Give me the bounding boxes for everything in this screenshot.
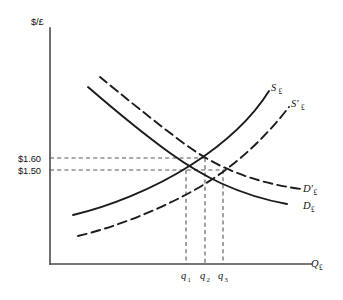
x-axis-label: Q £: [311, 258, 323, 272]
demand-label-sub: £: [311, 206, 315, 214]
quantity-tick-q1: q 1: [181, 270, 191, 283]
x-axis-label-sub: £: [319, 264, 323, 272]
supply-shifted-curve: [78, 107, 289, 236]
q2-label-sub: 2: [207, 276, 211, 283]
quantity-tick-q3: q 3: [218, 270, 229, 283]
demand-shifted-label-main: D': [302, 183, 314, 194]
supply-label-sub: £: [279, 88, 283, 96]
q1-label-main: q: [181, 270, 186, 281]
supply-shifted-label-sub: £: [301, 104, 305, 112]
q3-label-sub: 3: [225, 276, 229, 283]
axes-group: [50, 28, 311, 264]
chart-canvas: $/£ $1.60 $1.50 Q £ q 1 q 2 q 3 S £ S' £: [0, 0, 343, 300]
supply-shifted-label-main: S': [291, 98, 299, 109]
demand-shifted-label: D' £: [302, 183, 318, 197]
exchange-rate-supply-demand-figure: $/£ $1.60 $1.50 Q £ q 1 q 2 q 3 S £ S' £: [0, 0, 343, 300]
q2-label-main: q: [200, 270, 205, 281]
demand-original-curve: [88, 87, 287, 204]
x-axis-label-main: Q: [311, 258, 319, 269]
y-axis-label: $/£: [31, 16, 45, 27]
q3-label-main: q: [218, 270, 223, 281]
supply-original-label: S £: [271, 82, 283, 96]
demand-shifted-label-sub: £: [314, 189, 318, 197]
supply-shifted-label: S' £: [291, 98, 305, 112]
quantity-tick-q2: q 2: [200, 270, 211, 283]
price-label-low: $1.50: [18, 165, 41, 176]
supply-label-main: S: [271, 82, 277, 93]
q1-label-sub: 1: [188, 276, 191, 283]
demand-label-main: D: [302, 200, 311, 211]
demand-original-label: D £: [302, 200, 315, 214]
price-label-high: $1.60: [18, 153, 41, 164]
